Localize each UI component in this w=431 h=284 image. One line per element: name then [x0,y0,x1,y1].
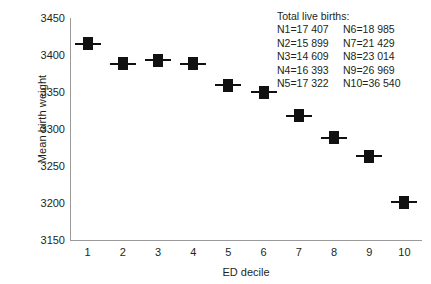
x-tick-label: 3 [155,246,161,258]
annotation-heading: Total live births: [277,10,423,23]
annotation-right-value: N7=21 429 [343,37,423,50]
annotation-row: N4=16 393N9=26 969 [277,64,423,77]
y-axis-line [70,18,71,240]
x-tick-label: 9 [366,246,372,258]
data-point-marker [321,131,347,145]
x-tick-label: 7 [296,246,302,258]
x-tick-label: 2 [120,246,126,258]
y-tick-label: 3450 [41,12,65,24]
annotation-left-value: N4=16 393 [277,64,343,77]
x-tick-label: 6 [261,246,267,258]
total-live-births-annotation: Total live births: N1=17 407N6=18 985N2=… [277,10,423,90]
marker-square [188,57,198,70]
x-tick-label: 5 [225,246,231,258]
y-tick-label: 3350 [41,86,65,98]
marker-square [83,37,93,50]
annotation-left-value: N2=15 899 [277,37,343,50]
annotation-right-value: N10=36 540 [343,77,423,90]
y-tick-label: 3150 [41,234,65,246]
marker-square [118,57,128,70]
marker-square [399,196,409,209]
y-tick-label: 3300 [41,123,65,135]
annotation-left-value: N1=17 407 [277,23,343,36]
annotation-rows: N1=17 407N6=18 985N2=15 899N7=21 429N3=1… [277,23,423,90]
data-point-marker [391,195,417,209]
x-axis-line [70,240,422,241]
data-point-marker [180,57,206,71]
annotation-left-value: N5=17 322 [277,77,343,90]
marker-square [259,86,269,99]
annotation-row: N1=17 407N6=18 985 [277,23,423,36]
marker-square [294,109,304,122]
data-point-marker [75,37,101,51]
annotation-row: N2=15 899N7=21 429 [277,37,423,50]
data-point-marker [356,149,382,163]
data-point-marker [110,57,136,71]
marker-square [153,54,163,67]
data-point-marker [215,78,241,92]
data-point-marker [145,53,171,67]
y-tick-label: 3250 [41,160,65,172]
annotation-left-value: N3=14 609 [277,50,343,63]
birth-weight-scatter-chart: Mean birth weight 3450340033503300325032… [0,0,431,284]
y-tick-label: 3400 [41,49,65,61]
x-tick-label: 10 [398,246,410,258]
marker-square [364,150,374,163]
marker-square [223,79,233,92]
annotation-row: N3=14 609N8=23 014 [277,50,423,63]
annotation-right-value: N8=23 014 [343,50,423,63]
annotation-right-value: N6=18 985 [343,23,423,36]
data-point-marker [286,109,312,123]
y-tick-label: 3200 [41,197,65,209]
data-point-marker [251,85,277,99]
x-tick-label: 1 [85,246,91,258]
marker-square [329,131,339,144]
x-tick-label: 4 [190,246,196,258]
x-axis-title: ED decile [70,266,422,278]
annotation-row: N5=17 322N10=36 540 [277,77,423,90]
annotation-right-value: N9=26 969 [343,64,423,77]
x-tick-label: 8 [331,246,337,258]
